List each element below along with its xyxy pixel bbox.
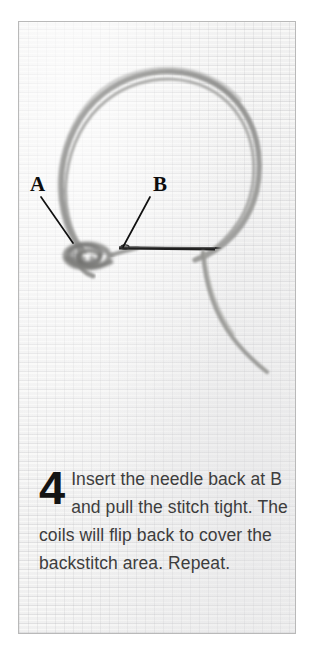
instruction-page: A B 4 Insert the needle back at B and pu… — [0, 0, 312, 657]
thread-tail — [203, 252, 267, 372]
photo-plate: A B 4 Insert the needle back at B and pu… — [18, 21, 296, 634]
label-b-text: B — [153, 172, 167, 196]
step-caption: 4 Insert the needle back at B and pull t… — [39, 465, 293, 577]
sewing-needle — [119, 245, 222, 249]
label-b: B — [153, 174, 167, 195]
step-number: 4 — [39, 468, 65, 508]
leader-line-b — [123, 197, 150, 247]
label-a: A — [30, 174, 45, 195]
thread-loop — [59, 68, 260, 260]
caption-text: Insert the needle back at B and pull the… — [39, 469, 288, 573]
label-a-text: A — [30, 172, 45, 196]
coiled-knot-at-a — [65, 244, 113, 268]
